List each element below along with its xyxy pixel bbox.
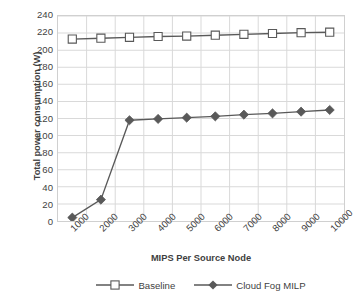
- legend-key-filled-diamond-icon: [194, 278, 232, 292]
- x-tick-label: 5000: [184, 211, 207, 234]
- legend-key-open-square-icon: [96, 278, 134, 292]
- chart-legend: BaselineCloud Fog MILP: [57, 276, 345, 294]
- x-axis-title: MIPS Per Source Node: [57, 253, 345, 263]
- x-tick-label: 10000: [328, 207, 355, 234]
- x-tick-label: 3000: [126, 211, 149, 234]
- legend-item-baseline[interactable]: Baseline: [96, 278, 175, 292]
- x-tick-label: 7000: [241, 211, 264, 234]
- legend-item-cloud-fog-milp[interactable]: Cloud Fog MILP: [194, 278, 305, 292]
- legend-label: Cloud Fog MILP: [236, 280, 305, 291]
- x-tick-label: 6000: [212, 211, 235, 234]
- x-tick-label: 9000: [299, 211, 322, 234]
- power-consumption-line-chart: Total power consumption (W) 020406080100…: [0, 0, 357, 301]
- legend-label: Baseline: [138, 280, 175, 291]
- x-tick-label: 4000: [155, 211, 178, 234]
- x-tick-label: 2000: [97, 211, 120, 234]
- x-tick-label: 8000: [270, 211, 293, 234]
- x-tick-label: 1000: [68, 211, 91, 234]
